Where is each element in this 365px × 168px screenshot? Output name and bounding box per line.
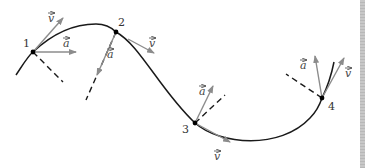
velocity-label-3: v bbox=[214, 150, 221, 163]
acceleration-label-2: a bbox=[107, 48, 114, 61]
point-1-group: 1 v a bbox=[23, 12, 76, 82]
normal-dashed-4 bbox=[286, 74, 322, 98]
point-4-label: 4 bbox=[328, 100, 335, 113]
velocity-arrow-3 bbox=[195, 123, 230, 142]
point-3-label: 3 bbox=[182, 123, 189, 136]
point-3-dot bbox=[193, 121, 198, 126]
acceleration-label-4: a bbox=[300, 59, 307, 72]
point-2-dot bbox=[114, 30, 119, 35]
acceleration-label-3: a bbox=[199, 85, 206, 98]
path-diagram: 1 v a 2 v a 3 v a 4 v a bbox=[0, 0, 365, 168]
point-3-group: 3 v a bbox=[182, 85, 230, 163]
scrollbar[interactable] bbox=[360, 0, 365, 168]
acceleration-arrow-4 bbox=[315, 56, 322, 98]
point-2-group: 2 v a bbox=[86, 16, 156, 100]
point-1-label: 1 bbox=[23, 37, 30, 50]
point-4-dot bbox=[320, 96, 325, 101]
point-1-dot bbox=[31, 50, 36, 55]
velocity-label-2: v bbox=[149, 37, 156, 50]
acceleration-label-1: a bbox=[63, 37, 70, 50]
point-2-label: 2 bbox=[118, 16, 125, 29]
normal-dashed-1 bbox=[33, 52, 63, 82]
velocity-label-4: v bbox=[345, 67, 352, 80]
normal-dashed-3 bbox=[195, 95, 225, 123]
velocity-label-1: v bbox=[48, 12, 55, 25]
